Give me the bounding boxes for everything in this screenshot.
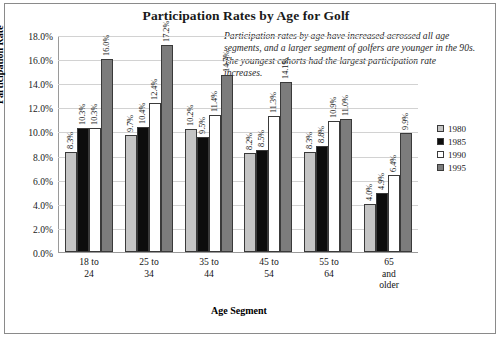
bar-value-label: 8.5% <box>257 129 266 146</box>
y-axis-tick-label: 0.0% <box>9 248 53 259</box>
bar-value-label: 10.3% <box>90 103 99 124</box>
bar-1990-45-to-54: 11.3% <box>268 116 280 252</box>
bar-value-label: 10.3% <box>78 103 87 124</box>
bar-1980-18-to-24: 8.3% <box>65 152 77 252</box>
bar-value-label: 11.4% <box>210 90 219 111</box>
bar-value-label: 17.2% <box>162 20 171 41</box>
bar-value-label: 10.4% <box>138 102 147 123</box>
bar-value-label: 9.9% <box>401 112 410 129</box>
x-axis-tick-label: 18 to24 <box>59 256 119 291</box>
legend-label: 1980 <box>448 124 466 134</box>
bar-group: 8.3%8.8%10.9%11.0% <box>298 36 358 252</box>
plot-area-wrapper: 0.0%2.0%4.0%6.0%8.0%10.0%12.0%14.0%16.0%… <box>58 36 418 253</box>
bar-1995-25-to-34: 17.2% <box>161 45 173 252</box>
bar-1980-35-to-44: 10.2% <box>185 129 197 252</box>
bar-value-label: 10.9% <box>329 96 338 117</box>
chart-title: Participation Rates by Age for Golf <box>0 8 492 24</box>
x-axis-tick-label: 45 to54 <box>239 256 299 291</box>
bar-1985-35-to-44: 9.5% <box>197 137 209 252</box>
legend-swatch-icon <box>437 138 444 145</box>
chart-container: Participation Rates by Age for Golf Part… <box>0 0 500 338</box>
legend-item-1985[interactable]: 1985 <box>437 135 466 148</box>
y-axis-tick-label: 12.0% <box>9 103 53 114</box>
bar-value-label: 8.3% <box>305 132 314 149</box>
bar-value-label: 8.2% <box>245 133 254 150</box>
bar-1980-45-to-54: 8.2% <box>244 153 256 252</box>
bar-1990-35-to-44: 11.4% <box>209 115 221 252</box>
bar-value-label: 14.7% <box>222 50 231 71</box>
bar-1990-18-to-24: 10.3% <box>89 128 101 252</box>
x-axis-tick-label: 25 to34 <box>119 256 179 291</box>
y-axis-tick-label: 16.0% <box>9 55 53 66</box>
y-axis-tick-label: 14.0% <box>9 79 53 90</box>
legend-label: 1995 <box>448 163 466 173</box>
bar-value-label: 8.8% <box>317 126 326 143</box>
x-axis-tick-label: 65andolder <box>359 256 419 291</box>
bar-1980-55-to-64: 8.3% <box>304 152 316 252</box>
bar-1995-45-to-54: 14.1% <box>280 82 292 252</box>
bar-1980-25-to-34: 9.7% <box>125 135 137 252</box>
bar-value-label: 9.7% <box>126 115 135 132</box>
bar-value-label: 12.4% <box>150 78 159 99</box>
bar-group: 10.2%9.5%11.4%14.7% <box>179 36 239 252</box>
bar-1985-25-to-34: 10.4% <box>137 127 149 252</box>
legend-swatch-icon <box>437 125 444 132</box>
bar-1985-65-and-older: 4.9% <box>376 193 388 252</box>
bar-1985-45-to-54: 8.5% <box>256 150 268 252</box>
legend-label: 1990 <box>448 150 466 160</box>
bar-value-label: 11.0% <box>341 95 350 116</box>
bar-1985-18-to-24: 10.3% <box>77 128 89 252</box>
bar-1995-55-to-64: 11.0% <box>340 119 352 252</box>
bar-1995-18-to-24: 16.0% <box>101 59 113 252</box>
y-axis-title: Participation Rate <box>0 25 5 104</box>
bar-group: 8.2%8.5%11.3%14.1% <box>238 36 298 252</box>
bar-group: 9.7%10.4%12.4%17.2% <box>119 36 179 252</box>
bar-1995-35-to-44: 14.7% <box>221 75 233 252</box>
x-axis-tick-label: 35 to44 <box>179 256 239 291</box>
bar-value-label: 4.0% <box>365 183 374 200</box>
bar-1980-65-and-older: 4.0% <box>364 204 376 252</box>
x-axis-tick-label: 55 to64 <box>299 256 359 291</box>
bar-value-label: 10.2% <box>186 105 195 126</box>
y-axis-tick-label: 18.0% <box>9 31 53 42</box>
y-axis-tick-label: 10.0% <box>9 127 53 138</box>
bar-value-label: 9.5% <box>198 117 207 134</box>
bar-1985-55-to-64: 8.8% <box>316 146 328 252</box>
bar-1995-65-and-older: 9.9% <box>400 133 412 252</box>
legend-swatch-icon <box>437 151 444 158</box>
bar-group: 8.3%10.3%10.3%16.0% <box>59 36 119 252</box>
legend-item-1995[interactable]: 1995 <box>437 161 466 174</box>
legend-swatch-icon <box>437 164 444 171</box>
chart-legend: 1980198519901995 <box>437 122 466 174</box>
x-axis-tick-labels: 18 to2425 to3435 to4445 to5455 to6465and… <box>59 256 419 291</box>
x-axis-title: Age Segment <box>59 305 419 316</box>
y-axis-tick-label: 6.0% <box>9 175 53 186</box>
bar-group: 4.0%4.9%6.4%9.9% <box>358 36 418 252</box>
bar-value-label: 16.0% <box>102 35 111 56</box>
bar-value-label: 8.3% <box>66 132 75 149</box>
bar-1990-25-to-34: 12.4% <box>149 103 161 252</box>
legend-item-1980[interactable]: 1980 <box>437 122 466 135</box>
legend-label: 1985 <box>448 137 466 147</box>
bar-value-label: 14.1% <box>281 58 290 79</box>
bar-value-label: 4.9% <box>377 173 386 190</box>
bar-groups: 8.3%10.3%10.3%16.0%9.7%10.4%12.4%17.2%10… <box>59 36 418 252</box>
bar-value-label: 11.3% <box>269 92 278 113</box>
bar-1990-55-to-64: 10.9% <box>328 121 340 252</box>
bar-1990-65-and-older: 6.4% <box>388 175 400 252</box>
y-axis-tick-label: 2.0% <box>9 223 53 234</box>
bar-value-label: 6.4% <box>389 155 398 172</box>
legend-item-1990[interactable]: 1990 <box>437 148 466 161</box>
y-axis-tick-label: 8.0% <box>9 151 53 162</box>
y-axis-tick-label: 4.0% <box>9 199 53 210</box>
